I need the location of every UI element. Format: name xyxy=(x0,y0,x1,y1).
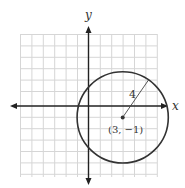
coordinate-plane-figure: y x 4 (3, −1) xyxy=(0,0,185,188)
x-axis-label: x xyxy=(172,99,179,113)
y-axis-label: y xyxy=(84,8,92,22)
center-point xyxy=(121,115,125,119)
y-axis-up-arrow-icon xyxy=(86,26,92,33)
y-axis-down-arrow-icon xyxy=(86,178,92,185)
radius-label: 4 xyxy=(129,88,136,101)
center-label: (3, −1) xyxy=(108,124,143,135)
x-axis-left-arrow-icon xyxy=(10,103,17,109)
